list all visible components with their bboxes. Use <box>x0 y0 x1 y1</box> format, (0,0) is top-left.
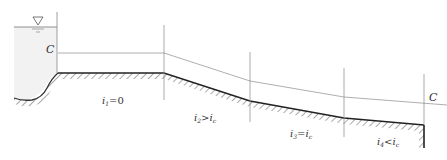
critical-depth-label-left: C <box>46 43 54 56</box>
critical-depth-label-right: C <box>429 91 437 104</box>
reach-1-slope-label: i1=0 <box>102 95 124 107</box>
water-surface-symbol-icon <box>33 17 43 25</box>
channel-bed-hatch <box>58 73 424 148</box>
reach-3-slope-label: i3=ic <box>290 128 312 140</box>
reach-4-slope-label: i4<ic <box>377 136 399 148</box>
reach-2-slope-label: i2>ic <box>194 112 216 124</box>
